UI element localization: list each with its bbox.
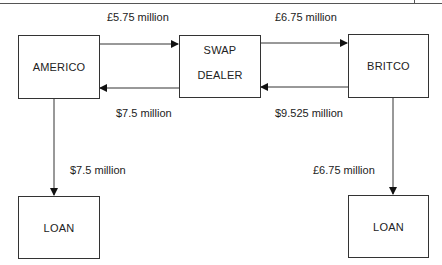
edge-label-britco-to-dealer: $9.525 million <box>275 107 343 119</box>
node-loan-left-label: LOAN <box>44 222 75 234</box>
node-loan-right-label: LOAN <box>373 221 404 233</box>
edge-label-britco-to-loan: £6.75 million <box>313 164 375 176</box>
node-americo-label: AMERICO <box>33 61 86 73</box>
node-britco: BRITCO <box>348 34 429 98</box>
node-swap-dealer: SWAP DEALER <box>179 35 261 98</box>
node-americo: AMERICO <box>18 35 100 99</box>
edge-label-dealer-to-americo: $7.5 million <box>116 107 172 119</box>
node-britco-label: BRITCO <box>367 60 410 72</box>
node-loan-right: LOAN <box>348 195 429 258</box>
node-swap-dealer-line2: DEALER <box>197 63 242 88</box>
node-swap-dealer-line1: SWAP <box>204 38 237 63</box>
edge-label-dealer-to-britco: £6.75 million <box>275 11 337 23</box>
edge-label-americo-to-dealer: £5.75 million <box>107 11 169 23</box>
edge-label-americo-to-loan: $7.5 million <box>70 164 126 176</box>
node-loan-left: LOAN <box>18 196 100 259</box>
